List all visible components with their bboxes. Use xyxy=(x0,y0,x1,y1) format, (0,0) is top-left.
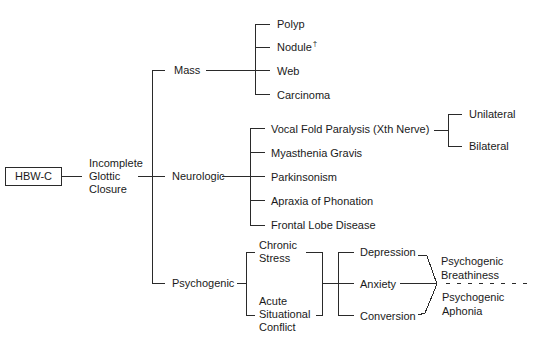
node-conversion: Conversion xyxy=(360,309,416,323)
node-nodule: Nodule† xyxy=(277,40,317,54)
node-apraxia-of-phonation: Apraxia of Phonation xyxy=(271,194,373,208)
node-mass: Mass xyxy=(174,63,200,77)
node-depression: Depression xyxy=(360,245,416,259)
node-vocal-fold-paralysis: Vocal Fold Paralysis (Xth Nerve) xyxy=(271,122,429,136)
node-psychogenic-breathiness: Psychogenic Breathiness xyxy=(441,254,503,282)
node-incomplete-glottic-closure: Incomplete Glottic Closure xyxy=(89,157,143,196)
node-unilateral: Unilateral xyxy=(469,107,515,121)
node-neurologic: Neurologic xyxy=(172,169,225,183)
node-psychogenic-aphonia: Psychogenic Aphonia xyxy=(442,290,504,318)
root-label: HBW-C xyxy=(15,170,52,182)
node-acute-situational-conflict: Acute Situational Conflict xyxy=(259,295,310,334)
node-chronic-stress: Chronic Stress xyxy=(259,239,297,265)
node-web: Web xyxy=(277,64,299,78)
node-anxiety: Anxiety xyxy=(360,277,396,291)
node-frontal-lobe-disease: Frontal Lobe Disease xyxy=(271,218,376,232)
root-node-hbw-c: HBW-C xyxy=(5,167,62,186)
node-myasthenia-gravis: Myasthenia Gravis xyxy=(271,146,362,160)
node-carcinoma: Carcinoma xyxy=(277,88,330,102)
node-parkinsonism: Parkinsonism xyxy=(271,170,337,184)
node-bilateral: Bilateral xyxy=(469,139,509,153)
node-polyp: Polyp xyxy=(277,17,305,31)
footnote-dagger: † xyxy=(313,39,317,48)
node-psychogenic: Psychogenic xyxy=(172,276,234,290)
